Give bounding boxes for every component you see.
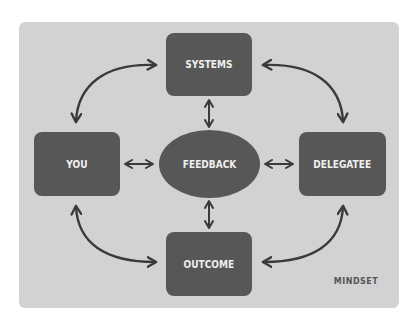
caption-mindset: MINDSET <box>330 277 382 286</box>
node-you-label: YOU <box>66 158 87 171</box>
node-outcome-label: OUTCOME <box>184 258 235 271</box>
node-feedback: FEEDBACK <box>159 130 260 198</box>
node-systems: SYSTEMS <box>166 33 252 96</box>
node-delegatee: DELEGATEE <box>299 132 386 196</box>
node-systems-label: SYSTEMS <box>185 58 232 71</box>
arrow-you-outcome <box>76 207 155 262</box>
arrow-delegatee-outcome <box>264 207 343 262</box>
node-feedback-label: FEEDBACK <box>183 158 236 171</box>
arrow-systems-delegatee <box>264 65 343 121</box>
arrow-systems-you <box>76 65 155 121</box>
node-you: YOU <box>34 132 120 196</box>
node-delegatee-label: DELEGATEE <box>314 158 372 171</box>
node-outcome: OUTCOME <box>166 232 252 296</box>
